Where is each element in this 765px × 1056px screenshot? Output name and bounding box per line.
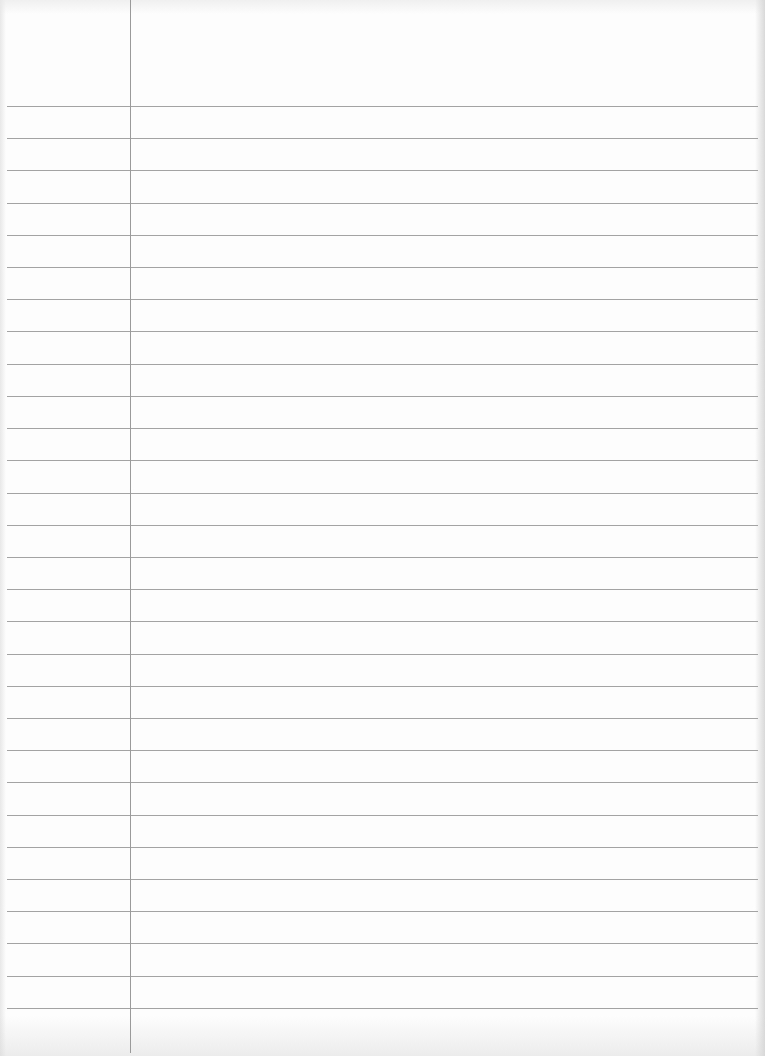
top-edge-shadow [0,0,765,14]
rule-line [7,493,758,494]
rule-line [7,718,758,719]
rule-line [7,460,758,461]
rule-line [7,525,758,526]
rule-line [7,879,758,880]
rule-line [7,299,758,300]
rule-line [7,976,758,977]
rule-line [7,621,758,622]
rule-line [7,911,758,912]
rule-line [7,943,758,944]
rule-line [7,428,758,429]
rule-line [7,686,758,687]
rule-line [7,267,758,268]
margin-line [130,0,131,1053]
right-edge-shadow [755,0,765,1056]
rule-line [7,106,758,107]
rule-line [7,396,758,397]
rule-line [7,847,758,848]
rule-line [7,750,758,751]
rule-line [7,589,758,590]
rule-line [7,331,758,332]
rule-line [7,138,758,139]
rule-line [7,557,758,558]
rule-line [7,170,758,171]
rule-line [7,364,758,365]
rule-line [7,1008,758,1009]
rule-line [7,782,758,783]
left-edge-shadow [0,0,6,1056]
rule-line [7,654,758,655]
rule-line [7,815,758,816]
notebook-page [0,0,765,1056]
rule-line [7,203,758,204]
rule-line [7,235,758,236]
bottom-edge-shadow [0,1016,765,1056]
